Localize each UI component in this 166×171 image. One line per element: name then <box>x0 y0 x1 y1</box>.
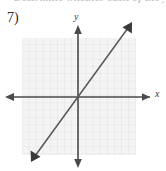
worksheet-page: Determine whether each of the y is a f 7… <box>0 0 166 171</box>
x-axis-arrow-left <box>5 93 14 101</box>
x-axis-label: x <box>155 89 159 99</box>
coordinate-graph-svg <box>0 0 166 171</box>
x-axis-arrow-right <box>142 93 150 101</box>
y-axis-label: y <box>74 12 78 22</box>
plotted-line-arrow-upper-right <box>123 22 133 34</box>
y-axis-arrow-down <box>74 159 82 168</box>
coordinate-graph: y x <box>0 0 166 171</box>
y-axis-arrow-up <box>74 25 82 34</box>
